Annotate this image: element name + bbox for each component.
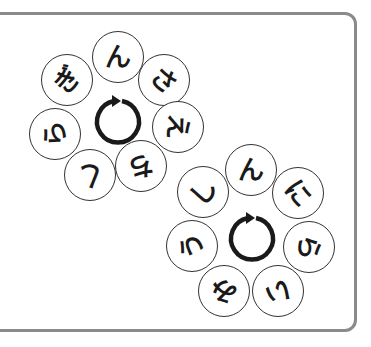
tile-char: し: [185, 174, 222, 211]
tile-char: ん: [105, 44, 131, 70]
letter-tile[interactable]: え: [152, 101, 204, 153]
tile-char: み: [207, 274, 240, 307]
rotate-cycle-icon: [90, 94, 146, 150]
tile-char: い: [263, 276, 293, 306]
tile-char: う: [177, 231, 207, 261]
letter-tile[interactable]: み: [198, 265, 250, 317]
letter-tile[interactable]: う: [166, 220, 218, 272]
tile-char: え: [164, 113, 192, 141]
letter-tile[interactable]: い: [252, 265, 304, 317]
tile-char: ち: [126, 151, 156, 181]
tile-char: ら: [294, 232, 324, 262]
letter-tile[interactable]: ら: [283, 221, 335, 273]
letter-tile[interactable]: ら: [29, 108, 81, 160]
tile-char: に: [280, 175, 317, 212]
tile-char: ら: [40, 119, 70, 149]
tile-char: さ: [146, 62, 183, 99]
letter-tile[interactable]: ぎ: [41, 54, 93, 106]
tile-char: ん: [238, 157, 264, 183]
tile-char: ぎ: [49, 62, 86, 99]
rotate-cycle-icon: [224, 211, 280, 267]
letter-tile[interactable]: し: [64, 149, 116, 201]
letter-tile[interactable]: ん: [92, 31, 144, 83]
letter-tile[interactable]: し: [177, 166, 229, 218]
letter-tile[interactable]: ん: [225, 144, 277, 196]
tile-char: し: [73, 158, 106, 191]
